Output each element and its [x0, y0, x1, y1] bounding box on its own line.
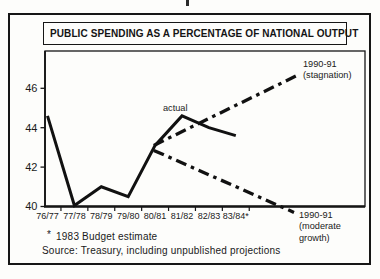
projection-line-moderate-growth: [154, 150, 294, 212]
footnote: *1983 Budget estimate: [47, 231, 157, 242]
footnote-marker: *: [47, 229, 51, 240]
x-tick-label: 80/81: [144, 211, 167, 221]
x-tick-label: 83/84*: [223, 211, 250, 221]
projection-label-moderate-growth: (moderate: [299, 221, 341, 231]
projection-label-stagnation: (stagnation): [303, 70, 352, 80]
actual-line-label: actual: [163, 103, 188, 113]
x-tick-label: 81/82: [171, 211, 194, 221]
footnote-text: 1983 Budget estimate: [56, 231, 157, 242]
actual-line: [48, 116, 236, 206]
projection-label-moderate-growth: 1990-91: [299, 210, 333, 220]
y-tick-label: 42: [25, 161, 37, 173]
x-tick-label: 79/80: [117, 211, 140, 221]
y-tick-label: 46: [25, 82, 37, 94]
x-tick-label: 76/77: [36, 211, 59, 221]
x-tick-label: 82/83: [198, 211, 221, 221]
x-tick-label: 77/78: [63, 211, 86, 221]
projection-label-moderate-growth: growth): [299, 233, 330, 243]
figure-page: PUBLIC SPENDING AS A PERCENTAGE OF NATIO…: [0, 0, 380, 279]
x-tick-label: 78/79: [90, 211, 113, 221]
y-tick-label: 44: [25, 122, 37, 134]
source-line: Source: Treasury, including unpublished …: [42, 245, 280, 256]
projection-label-stagnation: 1990-91: [303, 59, 337, 69]
